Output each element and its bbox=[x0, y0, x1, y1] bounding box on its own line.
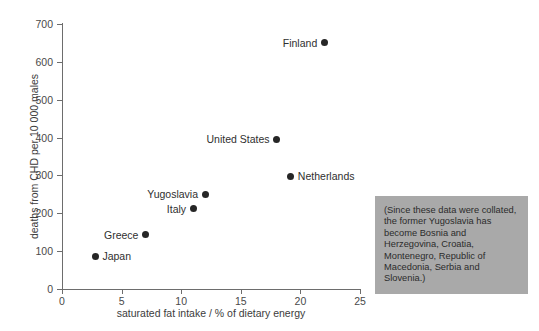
y-tick-mark bbox=[57, 251, 62, 252]
x-tick-label: 10 bbox=[175, 296, 187, 307]
data-point-label: Finland bbox=[283, 37, 324, 49]
x-tick-mark bbox=[360, 289, 361, 294]
data-point-label: Japan bbox=[95, 250, 131, 262]
x-tick-mark bbox=[181, 289, 182, 294]
x-axis-title: saturated fat intake / % of dietary ener… bbox=[62, 306, 360, 320]
data-point-label: Greece bbox=[104, 229, 145, 241]
x-tick-mark bbox=[300, 289, 301, 294]
y-tick-mark bbox=[57, 100, 62, 101]
x-tick-mark bbox=[62, 289, 63, 294]
y-tick-mark bbox=[57, 24, 62, 25]
x-tick-label: 5 bbox=[119, 296, 125, 307]
x-tick-label: 0 bbox=[59, 296, 65, 307]
x-tick-mark bbox=[122, 289, 123, 294]
x-tick-label: 25 bbox=[354, 296, 366, 307]
y-tick-label: 0 bbox=[47, 284, 53, 295]
y-tick-mark bbox=[57, 175, 62, 176]
note-text: (Since these data were collated, the for… bbox=[384, 205, 519, 285]
x-tick-label: 15 bbox=[235, 296, 247, 307]
data-point-label: United States bbox=[207, 133, 277, 145]
x-axis-line bbox=[62, 289, 361, 290]
x-tick-label: 20 bbox=[295, 296, 307, 307]
data-point-label: Netherlands bbox=[291, 170, 355, 182]
y-tick-mark bbox=[57, 62, 62, 63]
plot-area: 0100200300400500600700 0510152025 JapanG… bbox=[62, 24, 360, 289]
y-tick-mark bbox=[57, 213, 62, 214]
data-point-label: Yugoslavia bbox=[147, 188, 205, 200]
x-tick-mark bbox=[241, 289, 242, 294]
note-box: (Since these data were collated, the for… bbox=[375, 196, 528, 294]
y-axis-title: deaths from CHD per 10 000 males bbox=[26, 24, 42, 289]
y-tick-mark bbox=[57, 138, 62, 139]
scatter-chart-figure: 0100200300400500600700 0510152025 JapanG… bbox=[0, 0, 539, 331]
data-point-label: Italy bbox=[167, 203, 193, 215]
